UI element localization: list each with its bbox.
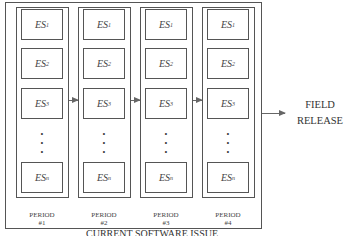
arrow-3-to-4 xyxy=(193,100,202,101)
arrow-2-to-3 xyxy=(131,100,140,101)
es-n-box: ESn xyxy=(145,162,187,193)
arrow-1-to-2 xyxy=(69,100,78,101)
es-n-box: ESn xyxy=(207,162,249,193)
es-2-box: ES2 xyxy=(83,48,125,79)
es-1-box: ES1 xyxy=(207,9,249,40)
diagram-caption: CURRENT SOFTWARE ISSUE xyxy=(86,228,218,236)
es-2-box: ES2 xyxy=(145,48,187,79)
es-1-box: ES1 xyxy=(21,9,63,40)
es-n-box: ESn xyxy=(83,162,125,193)
ellipsis-dots: ••• xyxy=(207,130,249,157)
es-3-box: ES3 xyxy=(145,88,187,119)
es-2-box: ES2 xyxy=(207,48,249,79)
es-3-box: ES3 xyxy=(83,88,125,119)
period-3-label: PERIOD#3 xyxy=(136,211,196,227)
field-release-label: FIELD RELEASE xyxy=(290,97,347,129)
es-1-box: ES1 xyxy=(83,9,125,40)
ellipsis-dots: ••• xyxy=(21,130,63,157)
es-3-box: ES3 xyxy=(21,88,63,119)
period-2-label: PERIOD#2 xyxy=(74,211,134,227)
ellipsis-dots: ••• xyxy=(145,130,187,157)
es-1-box: ES1 xyxy=(145,9,187,40)
ellipsis-dots: ••• xyxy=(83,130,125,157)
es-3-box: ES3 xyxy=(207,88,249,119)
es-n-box: ESn xyxy=(21,162,63,193)
field-release-arrow xyxy=(262,113,285,114)
period-4-label: PERIOD#4 xyxy=(198,211,258,227)
es-2-box: ES2 xyxy=(21,48,63,79)
period-1-label: PERIOD#1 xyxy=(12,211,72,227)
